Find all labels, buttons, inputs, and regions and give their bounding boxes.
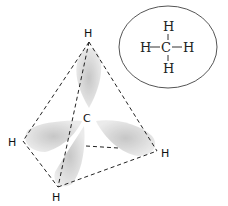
atom-label-h-top: H — [84, 27, 92, 40]
atom-label-h-bottom: H — [52, 191, 60, 204]
formula-h-left: H — [140, 40, 151, 55]
orbital-lobe-right — [96, 120, 155, 156]
atom-label-h-left: H — [8, 136, 16, 149]
formula-h-right: H — [183, 40, 194, 55]
atom-label-h-right: H — [161, 147, 169, 160]
orbital-lobe-top — [76, 48, 101, 108]
formula-h-top: H — [163, 19, 174, 34]
methane-diagram: H H H H C H H C H H — [0, 0, 228, 206]
formula-h-bottom: H — [163, 61, 174, 76]
atom-label-c: C — [83, 112, 91, 125]
formula-c: C — [161, 40, 171, 55]
structural-formula-inset: H H C H H — [119, 6, 217, 88]
